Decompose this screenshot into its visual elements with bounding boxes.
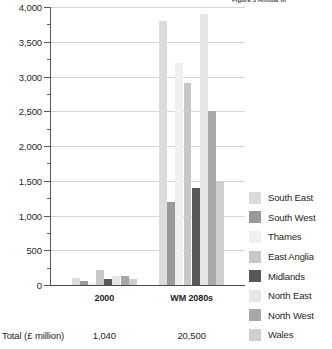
bar — [184, 83, 192, 285]
y-tick-minor — [47, 198, 51, 199]
x-category-label: WM 2080s — [170, 293, 213, 303]
y-tick-major — [44, 250, 51, 251]
y-tick-major — [44, 216, 51, 217]
y-tick-label: 2,000 — [19, 141, 42, 152]
legend-label: North East — [268, 290, 311, 301]
bar — [96, 270, 104, 285]
y-tick-minor — [47, 24, 51, 25]
bar — [88, 283, 96, 285]
legend-swatch-icon — [249, 192, 261, 204]
bar — [159, 21, 167, 285]
legend-label: East Anglia — [268, 251, 314, 262]
gridline — [51, 42, 245, 43]
legend-label: South West — [268, 212, 315, 223]
bar-chart: Figure 3 Annual m 05001,0001,5002,0002,5… — [0, 0, 332, 349]
y-tick-major — [44, 42, 51, 43]
y-tick-label: 3,000 — [19, 71, 42, 82]
y-tick-label: 0 — [37, 280, 42, 291]
y-tick-minor — [47, 268, 51, 269]
gridline — [51, 111, 245, 112]
legend-item[interactable]: North West — [249, 306, 315, 326]
bar — [80, 281, 88, 285]
y-tick-minor — [47, 94, 51, 95]
bar — [129, 279, 137, 285]
legend-item[interactable]: South West — [249, 208, 315, 228]
bar — [200, 14, 208, 285]
y-tick-major — [44, 146, 51, 147]
bar — [121, 276, 129, 285]
y-tick-minor — [47, 163, 51, 164]
bar — [72, 278, 80, 285]
legend-item[interactable]: East Anglia — [249, 247, 315, 267]
legend-item[interactable]: South East — [249, 188, 315, 208]
plot-area — [51, 7, 245, 285]
total-value: 20,500 — [177, 330, 205, 341]
figure-caption: Figure 3 Annual m — [232, 0, 286, 3]
y-tick-label: 2,500 — [19, 106, 42, 117]
y-tick-major — [44, 285, 51, 286]
y-tick-major — [44, 77, 51, 78]
legend-swatch-icon — [249, 251, 261, 263]
gridline — [51, 77, 245, 78]
axis-baseline — [51, 285, 245, 286]
legend-swatch-icon — [249, 270, 261, 282]
bar — [216, 181, 224, 285]
y-tick-label: 1,500 — [19, 175, 42, 186]
y-tick-major — [44, 181, 51, 182]
y-tick-minor — [47, 59, 51, 60]
legend-swatch-icon — [249, 290, 261, 302]
gridline — [51, 146, 245, 147]
legend-label: North West — [268, 310, 314, 321]
y-tick-label: 500 — [26, 245, 42, 256]
legend-label: South East — [268, 192, 313, 203]
legend-swatch-icon — [249, 309, 261, 321]
bar — [167, 202, 175, 285]
legend-label: Thames — [268, 231, 301, 242]
legend-swatch-icon — [249, 211, 261, 223]
bar — [112, 276, 120, 285]
y-tick-minor — [47, 233, 51, 234]
bar — [192, 188, 200, 285]
legend-item[interactable]: North East — [249, 286, 315, 306]
legend-label: Wales — [268, 329, 293, 340]
bar — [208, 111, 216, 285]
y-tick-label: 1,000 — [19, 210, 42, 221]
x-category-label: 2000 — [95, 293, 115, 303]
y-tick-minor — [47, 129, 51, 130]
bar — [104, 279, 112, 285]
gridline — [51, 7, 245, 8]
y-tick-label: 3,500 — [19, 36, 42, 47]
legend-item[interactable]: Thames — [249, 227, 315, 247]
legend-label: Midlands — [268, 271, 305, 282]
y-tick-label: 4,000 — [19, 2, 42, 13]
legend-swatch-icon — [249, 231, 261, 243]
legend: South EastSouth WestThamesEast AngliaMid… — [249, 188, 315, 345]
legend-item[interactable]: Wales — [249, 325, 315, 345]
total-value: 1,040 — [93, 330, 116, 341]
y-tick-major — [44, 111, 51, 112]
bar — [175, 63, 183, 285]
y-tick-major — [44, 7, 51, 8]
total-row-label: Total (£ million) — [2, 330, 64, 341]
legend-swatch-icon — [249, 329, 261, 341]
legend-item[interactable]: Midlands — [249, 266, 315, 286]
